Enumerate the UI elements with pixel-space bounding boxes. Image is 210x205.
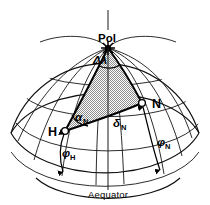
label-pole: Pol bbox=[98, 32, 116, 44]
label-point-h: H bbox=[48, 125, 57, 139]
sphere-diagram: Pol H N Δλ α N δ N φ H φ N Aequator bbox=[0, 0, 210, 205]
label-alpha-subscript: N bbox=[83, 117, 88, 126]
label-phi-n-subscript: N bbox=[165, 142, 170, 151]
marker-n bbox=[139, 100, 146, 107]
label-point-n: N bbox=[152, 97, 161, 111]
label-phi-n: φ bbox=[157, 136, 165, 148]
marker-h bbox=[62, 128, 69, 135]
label-delta-subscript: N bbox=[121, 123, 126, 132]
label-delta: δ bbox=[113, 117, 121, 129]
label-delta-n: δ N bbox=[113, 117, 126, 132]
label-equator: Aequator bbox=[88, 189, 128, 200]
label-delta-lambda: Δλ bbox=[92, 54, 107, 66]
label-phi-h-subscript: H bbox=[70, 153, 75, 162]
label-phi-h: φ bbox=[62, 147, 70, 159]
label-alpha: α bbox=[75, 111, 83, 123]
spherical-triangle-figure: Pol H N Δλ α N δ N φ H φ N Aequator bbox=[0, 0, 210, 205]
